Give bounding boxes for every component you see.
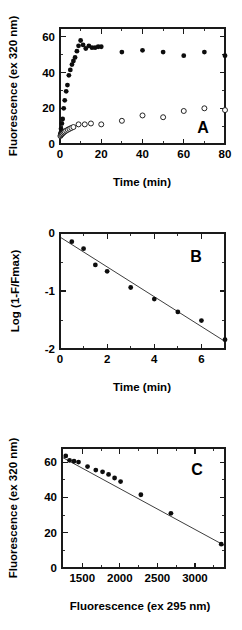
x-tick-label: 60 [177,148,190,160]
data-point-filled [73,55,78,60]
panel-b: 0246 -2-10 Time (min) Log (1-F/Fmax) B [0,210,242,420]
data-point-filled [93,263,98,268]
y-tick-label: 40 [42,67,55,79]
x-tick-label: 0 [57,353,63,365]
x-tick-label: 2 [104,353,110,365]
panel-c-xlabel: Fluorescence (ex 295 nm) [70,600,211,612]
data-point-open [119,118,124,123]
data-point-open [88,121,93,126]
data-point-open [76,122,81,127]
y-tick-label: 60 [42,31,55,43]
data-point-filled [66,73,71,78]
y-tick-label: 20 [42,102,55,114]
data-point-filled [60,117,65,122]
data-point-open [223,108,228,113]
data-point-filled [106,472,111,477]
data-point-filled [223,53,228,58]
panel-c-ylabel: Fluorescence (ex 320 nm) [7,438,19,579]
x-tick-label: 80 [219,148,232,160]
x-tick-label: 3000 [182,572,208,584]
data-point-filled [78,38,83,43]
data-point-open [161,115,166,120]
panel-a-plot: 020406080 0204060 Time (min) Fluorescenc… [0,0,242,210]
data-point-filled [119,50,124,55]
figure-container: 020406080 0204060 Time (min) Fluorescenc… [0,0,242,630]
panel-b-ylabel: Log (1-F/Fmax) [9,250,21,333]
data-point-filled [81,246,86,251]
panel-c: 1500200025003000 0204060 Fluorescence (e… [0,420,242,630]
panel-a-ylabel: Fluorescence (ex 320 nm) [7,16,19,157]
data-point-filled [85,464,90,469]
data-point-filled [93,468,98,473]
y-tick-label: 0 [49,138,55,150]
panel-c-yticklabels: 0204060 [44,456,57,574]
data-point-filled [138,492,143,497]
x-tick-label: 4 [151,353,158,365]
data-point-filled [75,49,80,54]
y-tick-label: 0 [49,227,55,239]
data-point-filled [105,269,110,274]
x-tick-label: 2000 [107,572,133,584]
data-point-filled [68,68,73,73]
x-tick-label: 1500 [69,572,95,584]
y-tick-label: 40 [44,491,57,503]
data-point-filled [140,48,145,53]
data-point-filled [112,476,117,481]
data-point-filled [65,83,70,88]
panel-b-xticklabels: 0246 [57,353,205,365]
data-point-filled [67,458,72,463]
x-tick-label: 40 [136,148,149,160]
data-point-filled [219,542,224,547]
data-point-open [82,122,87,127]
data-point-filled [76,43,81,48]
data-point-filled [99,44,104,49]
y-tick-label: 60 [44,456,57,468]
data-point-filled [59,121,64,126]
panel-c-yticks [62,462,225,568]
panel-c-letter: C [191,461,203,478]
panel-b-xlabel: Time (min) [113,381,171,393]
y-tick-label: 20 [44,527,57,539]
data-point-filled [152,297,157,302]
data-point-open [140,113,145,118]
data-point-open [99,122,104,127]
data-point-filled [72,459,77,464]
data-point-open [202,106,207,111]
data-point-open [71,125,76,130]
panel-a: 020406080 0204060 Time (min) Fluorescenc… [0,0,242,210]
data-point-filled [62,98,67,103]
x-tick-label: 2500 [145,572,171,584]
data-point-filled [175,309,180,314]
y-tick-label: 0 [51,562,57,574]
data-point-filled [169,511,174,516]
panel-a-yticklabels: 0204060 [42,31,55,150]
panel-b-plot: 0246 -2-10 Time (min) Log (1-F/Fmax) B [0,210,242,420]
panel-c-plot: 1500200025003000 0204060 Fluorescence (e… [0,420,242,630]
data-point-filled [69,239,74,244]
data-point-filled [61,106,66,111]
data-point-filled [100,469,105,474]
data-point-filled [202,50,207,55]
panel-b-letter: B [190,248,202,265]
panel-b-series [69,239,227,342]
y-tick-label: -1 [45,285,56,297]
panel-a-letter: A [197,119,209,136]
panel-a-xticklabels: 020406080 [57,148,232,160]
data-point-filled [181,53,186,58]
data-point-filled [63,454,68,459]
data-point-open [181,108,186,113]
panel-b-yticklabels: -2-10 [45,227,56,355]
data-point-filled [161,50,166,55]
data-point-filled [223,337,228,342]
x-tick-label: 0 [57,148,63,160]
data-point-filled [118,479,123,484]
x-tick-label: 20 [95,148,108,160]
panel-a-xlabel: Time (min) [113,176,171,188]
data-point-filled [64,89,69,94]
x-tick-label: 6 [198,353,204,365]
panel-c-xticklabels: 1500200025003000 [69,572,207,584]
y-tick-label: -2 [45,343,55,355]
data-point-filled [76,460,81,465]
data-point-filled [128,285,133,290]
data-point-filled [199,318,204,323]
